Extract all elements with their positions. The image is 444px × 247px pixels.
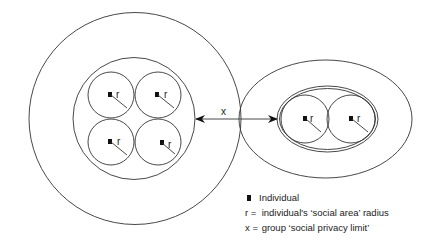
radius-label: r	[164, 89, 168, 100]
individual-icon	[108, 92, 112, 97]
radius-label: r	[117, 136, 121, 147]
legend-item-privacy-limit: x = group ‘social privacy limit’	[245, 220, 389, 235]
legend: Individual r = individual's ‘social area…	[245, 190, 389, 235]
individual-icon	[108, 139, 112, 144]
privacy-limit-arrow: x	[196, 106, 277, 119]
legend-text: individual's ‘social area’ radius	[262, 205, 389, 220]
left-group-boundary	[73, 58, 195, 180]
radius-label: r	[116, 89, 120, 100]
individual-social-area: r	[327, 95, 375, 143]
individual-social-area: r	[281, 95, 329, 143]
radius-label: r	[357, 113, 361, 124]
radius-label: r	[168, 139, 172, 150]
right-group-boundary-outer	[277, 86, 378, 152]
left-group: r r r r	[29, 13, 241, 225]
legend-item-radius: r = individual's ‘social area’ radius	[245, 205, 389, 220]
distance-label: x	[221, 106, 226, 117]
legend-item-individual: Individual	[245, 190, 389, 205]
legend-symbol: r =	[245, 205, 259, 220]
left-group-privacy-boundary	[29, 13, 241, 225]
individual-icon	[303, 116, 307, 121]
individual-icon	[349, 116, 353, 121]
individual-icon	[247, 195, 251, 201]
individual-social-area: r	[88, 119, 134, 165]
legend-text: group ‘social privacy limit’	[262, 220, 370, 235]
legend-text: Individual	[259, 190, 299, 205]
individual-social-area: r	[88, 72, 134, 118]
individual-icon	[155, 92, 159, 97]
legend-symbol: x =	[245, 220, 259, 235]
individual-social-area: r	[135, 119, 181, 165]
radius-label: r	[310, 113, 314, 124]
individual-social-area: r	[135, 72, 181, 118]
